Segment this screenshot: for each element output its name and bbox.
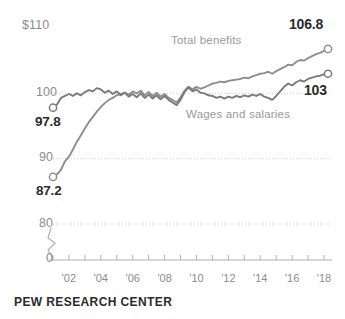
series-label-wages-and-salaries: Wages and salaries <box>186 108 290 120</box>
x-tick-label-2006: '06 <box>126 272 140 284</box>
endpoint-value-wages-and-salaries: 103 <box>304 82 327 98</box>
series-label-total-benefits: Total benefits <box>171 34 242 46</box>
x-tick-label-2012: '12 <box>221 272 235 284</box>
footer-credit: PEW RESEARCH CENTER <box>14 295 172 309</box>
y-tick-label-0: 0 <box>46 251 53 265</box>
y-tick-label-100: 100 <box>36 85 57 99</box>
x-tick-label-2014: '14 <box>253 272 267 284</box>
x-tick-label-2004: '04 <box>94 272 108 284</box>
x-tick-label-2008: '08 <box>157 272 171 284</box>
marker-wages-end <box>324 70 331 77</box>
x-tick-label-2002: '02 <box>62 272 76 284</box>
start-value-total-benefits: 87.2 <box>36 183 61 198</box>
y-tick-label-80: 80 <box>39 216 53 230</box>
endpoint-value-total-benefits: 106.8 <box>289 16 323 32</box>
x-tick-label-2016: '16 <box>285 272 299 284</box>
y-tick-label-90: 90 <box>39 150 53 164</box>
marker-wages-start <box>49 104 56 111</box>
chart-container: $110 100 90 80 0 '02'04'06'08'10'12'14'1… <box>0 0 345 319</box>
marker-benefits-end <box>324 45 331 52</box>
start-value-wages-and-salaries: 97.8 <box>35 114 60 129</box>
marker-benefits-start <box>49 173 56 180</box>
y-tick-label-110: $110 <box>22 18 49 32</box>
series-line-wages-and-salaries <box>53 74 328 108</box>
x-tick-label-2018: '18 <box>317 272 331 284</box>
x-axis-group <box>49 255 332 260</box>
x-tick-label-2010: '10 <box>189 272 203 284</box>
